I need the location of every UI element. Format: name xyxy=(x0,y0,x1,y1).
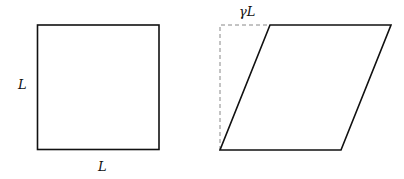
parallelogram-outline xyxy=(220,25,391,150)
shear-displacement-label: γL xyxy=(239,4,255,19)
shear-diagram: L L γL xyxy=(0,0,404,179)
square-outline xyxy=(38,25,160,150)
square-bottom-label: L xyxy=(97,159,107,174)
square-side-label: L xyxy=(17,77,27,92)
